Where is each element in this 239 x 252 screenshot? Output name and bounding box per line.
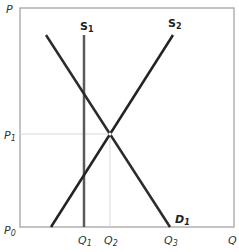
x-axis-label: Q [228, 234, 237, 247]
q3-label: Q3 [164, 234, 178, 248]
d1-demand-line [46, 35, 170, 227]
plot-frame [20, 8, 234, 227]
q2-label: Q2 [104, 234, 118, 248]
p1-label: P1 [4, 129, 16, 143]
supply-demand-chart: P Q P0 P1 Q1 Q2 Q3 S1 S2 D1 [0, 0, 239, 252]
p0-label: P0 [4, 224, 16, 238]
s2-supply-line [51, 35, 173, 227]
equilibrium-point [108, 132, 111, 135]
s2-label: S2 [168, 17, 182, 31]
q1-label: Q1 [78, 234, 92, 248]
s1-label: S1 [80, 20, 94, 34]
d1-label: D1 [175, 213, 190, 227]
y-axis-label: P [6, 3, 13, 16]
